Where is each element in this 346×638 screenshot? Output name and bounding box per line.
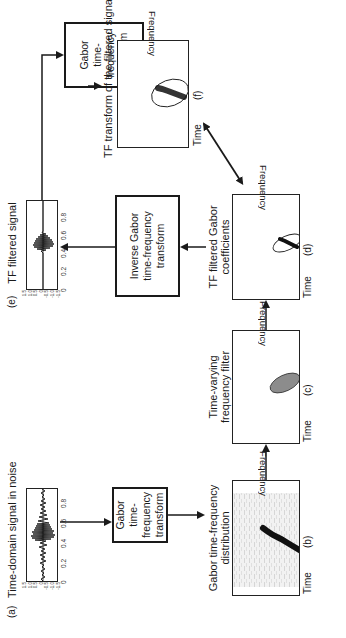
gabor-transform-box-1: Gabor time-frequency transform bbox=[112, 487, 168, 543]
panel-e-y-ticks: 1.5 1.0 0.5 0 -0.5 -1.0 -1.5 bbox=[22, 290, 62, 306]
panel-d-title: TF filtered Gabor coefficients bbox=[207, 194, 231, 300]
y-tick: -1.5 bbox=[56, 582, 62, 598]
panel-a-y-ticks: 1.5 1.0 0.5 0 -0.5 -1.0 -1.5 bbox=[22, 582, 62, 598]
title-line: TF filtered Gabor bbox=[207, 194, 219, 300]
panel-e-x-tick: 0.2 bbox=[60, 267, 67, 276]
noisy-signal-waveform bbox=[27, 488, 58, 581]
box-line: Inverse Gabor bbox=[128, 211, 141, 280]
inverse-gabor-transform-box: Inverse Gabor time-frequency transform bbox=[115, 195, 180, 297]
title-line: distribution bbox=[219, 480, 231, 596]
panel-d-xlabel: Time bbox=[302, 276, 313, 298]
panel-f-xlabel: Time bbox=[192, 124, 203, 146]
panel-f-ylabel: Frequency bbox=[147, 11, 158, 56]
panel-e-id: (e) bbox=[6, 296, 17, 308]
panel-b-xlabel: Time bbox=[302, 572, 313, 594]
box-line: time-frequency bbox=[141, 211, 154, 280]
panel-b-id: (b) bbox=[302, 536, 313, 548]
panel-f-plot bbox=[117, 40, 189, 148]
panel-a-x-tick: 0.8 bbox=[60, 499, 67, 508]
panel-a-plot bbox=[26, 488, 58, 582]
box-line: time-frequency bbox=[127, 491, 153, 539]
arrow-e-to-gabor2 bbox=[42, 55, 62, 200]
box-line: Gabor bbox=[78, 26, 91, 84]
panel-a-x-tick: 0.6 bbox=[60, 519, 67, 528]
title-line: coefficients bbox=[219, 194, 231, 300]
panel-c-title: Time-varying frequency filter bbox=[207, 330, 231, 444]
panel-a-x-tick: 0.4 bbox=[60, 539, 67, 548]
diagram-canvas: Time-domain signal in noise (a) 0 0.2 0.… bbox=[0, 0, 346, 638]
gabor-distribution-image bbox=[233, 480, 300, 595]
panel-a-id: (a) bbox=[6, 606, 17, 618]
box-line: Gabor bbox=[114, 491, 127, 539]
panel-b-title: Gabor time-frequency distribution bbox=[207, 480, 231, 596]
panel-d-ylabel: Frequency bbox=[258, 165, 269, 210]
title-line: Time-varying bbox=[207, 330, 219, 444]
title-line: Gabor time-frequency bbox=[207, 480, 219, 596]
double-arrow-d-f bbox=[204, 124, 240, 180]
panel-b-plot bbox=[232, 480, 300, 596]
panel-c-ylabel: Frequency bbox=[258, 301, 269, 346]
panel-b-ylabel: Frequency bbox=[258, 451, 269, 496]
panel-a-x-tick: 0.2 bbox=[60, 559, 67, 568]
filter-mask-image bbox=[233, 330, 300, 443]
panel-f-title: TF transform of the filtered signal bbox=[102, 28, 114, 158]
panel-a-title: Time-domain signal in noise bbox=[6, 468, 18, 598]
panel-e-x-tick: 0.4 bbox=[60, 249, 67, 258]
panel-c-plot bbox=[232, 330, 300, 444]
y-tick: -1.5 bbox=[56, 290, 62, 306]
panel-c-xlabel: Time bbox=[302, 420, 313, 442]
panel-e-x-tick: 0.6 bbox=[60, 231, 67, 240]
panel-f-id: (f) bbox=[192, 91, 203, 100]
title-line: frequency filter bbox=[219, 330, 231, 444]
box-line: transform bbox=[153, 491, 166, 539]
panel-e-title: TF filtered signal bbox=[6, 198, 18, 288]
panel-e-x-tick: 0.8 bbox=[60, 213, 67, 222]
panel-c-id: (c) bbox=[302, 384, 313, 396]
box-line: transform bbox=[154, 211, 167, 280]
panel-d-id: (d) bbox=[302, 244, 313, 256]
panel-e-plot bbox=[26, 200, 58, 290]
filtered-signal-waveform bbox=[27, 200, 58, 289]
